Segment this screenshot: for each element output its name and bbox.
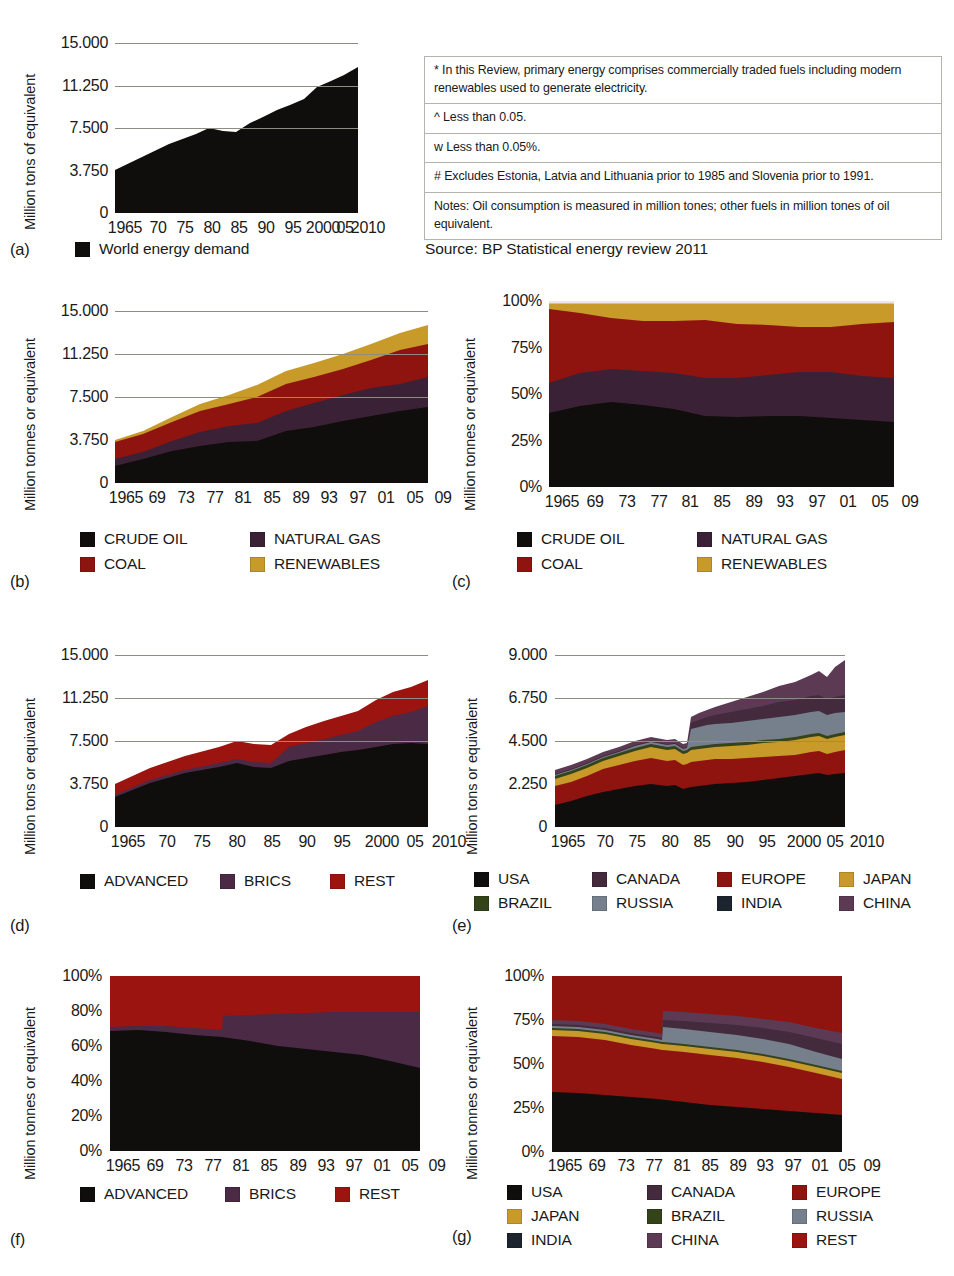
legend-item[interactable]: EUROPE [792,1183,922,1201]
x-tick: 2000 [365,834,399,850]
panel-d-legend: ADVANCED BRICS REST [80,872,430,890]
legend-item[interactable]: ADVANCED [80,1185,225,1203]
legend-item[interactable]: BRICS [225,1185,335,1203]
legend-label: RUSSIA [616,894,673,912]
legend-label: USA [531,1183,563,1201]
panel-a-y-ticks: 15.000 11.250 7.500 3.750 0 [30,28,108,214]
legend-item[interactable]: USA [507,1183,647,1201]
legend-item[interactable]: CHINA [647,1231,792,1249]
legend-item[interactable]: JAPAN [839,870,949,888]
panel-b-plot-area [115,311,428,483]
legend-item[interactable]: COAL [517,555,697,573]
x-tick: 05 [838,1158,855,1174]
legend-item[interactable]: RUSSIA [592,894,717,912]
notes-table: * In this Review, primary energy compris… [424,56,942,240]
x-tick: 69 [588,1158,605,1174]
panel-d: Million tons or equivalent 15.000 11.250… [0,640,450,930]
x-tick: 89 [289,1158,306,1174]
panel-e-legend: USA CANADA EUROPE JAPAN BRAZIL RUSSIA [474,870,954,912]
panel-a-plot-area [115,43,358,213]
legend-label: BRICS [249,1185,296,1203]
legend-swatch-russia [792,1209,807,1224]
x-tick: 73 [175,1158,192,1174]
x-tick: 89 [729,1158,746,1174]
legend-item[interactable]: NATURAL GAS [697,530,877,548]
panel-g: Million tonnes or equivalent 100% 75% 50… [452,965,954,1265]
y-tick: 0 [99,205,108,221]
y-tick: 3.750 [69,163,108,179]
x-tick: 73 [177,490,194,506]
legend-swatch-natural-gas [250,532,265,547]
legend-item[interactable]: RUSSIA [792,1207,922,1225]
x-tick: 93 [756,1158,773,1174]
legend-swatch-coal [517,557,532,572]
panel-g-plot-area [552,976,842,1152]
x-tick: 01 [377,490,394,506]
legend-item[interactable]: EUROPE [717,870,839,888]
x-tick: 90 [257,220,274,236]
legend-label: ADVANCED [104,1185,188,1203]
legend-label: CRUDE OIL [104,530,188,548]
legend-swatch-russia [592,896,607,911]
legend-label: World energy demand [99,240,249,258]
y-tick: 3.750 [69,776,108,792]
gridline [115,128,358,129]
x-tick: 05 [406,834,423,850]
gridline [115,655,428,656]
x-tick: 81 [232,1158,249,1174]
legend-label: CANADA [671,1183,735,1201]
legend-label: COAL [541,555,583,573]
legend-item[interactable]: BRAZIL [647,1207,792,1225]
legend-item[interactable]: BRICS [220,872,330,890]
legend-item[interactable]: CRUDE OIL [517,530,697,548]
legend-item[interactable]: REST [335,1185,425,1203]
x-tick: 75 [193,834,210,850]
panel-f: Million tonnes or equivalent 100% 80% 60… [0,965,450,1265]
legend-swatch-brics [225,1187,240,1202]
legend-item[interactable]: REST [330,872,420,890]
legend-label: BRICS [244,872,291,890]
legend-item[interactable]: CANADA [592,870,717,888]
legend-swatch-europe [792,1185,807,1200]
legend-item[interactable]: INDIA [717,894,839,912]
legend-swatch-china [647,1233,662,1248]
y-tick: 6.750 [508,690,547,706]
x-tick: 01 [811,1158,828,1174]
legend-swatch-brazil [474,896,489,911]
legend-item[interactable]: RENEWABLES [250,555,420,573]
x-tick: 81 [234,490,251,506]
x-tick: 01 [839,494,856,510]
y-tick: 25% [513,1100,544,1116]
y-tick: 11.250 [62,78,108,94]
legend-item[interactable]: JAPAN [507,1207,647,1225]
note-row: Notes: Oil consumption is measured in mi… [425,193,941,239]
panel-d-plot-area [115,655,428,827]
legend-item[interactable]: CANADA [647,1183,792,1201]
x-tick: 85 [701,1158,718,1174]
legend-item[interactable]: CRUDE OIL [80,530,250,548]
x-tick: 97 [349,490,366,506]
y-tick: 0 [538,819,547,835]
legend-item[interactable]: INDIA [507,1231,647,1249]
legend-swatch-rest [792,1233,807,1248]
legend-item[interactable]: World energy demand [75,240,249,258]
legend-item[interactable]: RENEWABLES [697,555,877,573]
gridline [115,43,358,44]
gridline [555,698,845,699]
legend-label: CRUDE OIL [541,530,625,548]
legend-item[interactable]: BRAZIL [474,894,592,912]
x-tick: 85 [263,490,280,506]
legend-item[interactable]: REST [792,1231,922,1249]
x-tick: 85 [713,494,730,510]
legend-item[interactable]: USA [474,870,592,888]
legend-swatch-japan [507,1209,522,1224]
legend-item[interactable]: ADVANCED [80,872,220,890]
figure-page: Million tons of equivalent 15.000 11.250… [0,0,954,1276]
panel-g-tag: (g) [452,1227,472,1246]
x-tick: 73 [618,494,635,510]
x-tick: 09 [863,1158,880,1174]
legend-item[interactable]: CHINA [839,894,949,912]
legend-item[interactable]: COAL [80,555,250,573]
gridline [555,741,845,742]
legend-item[interactable]: NATURAL GAS [250,530,420,548]
